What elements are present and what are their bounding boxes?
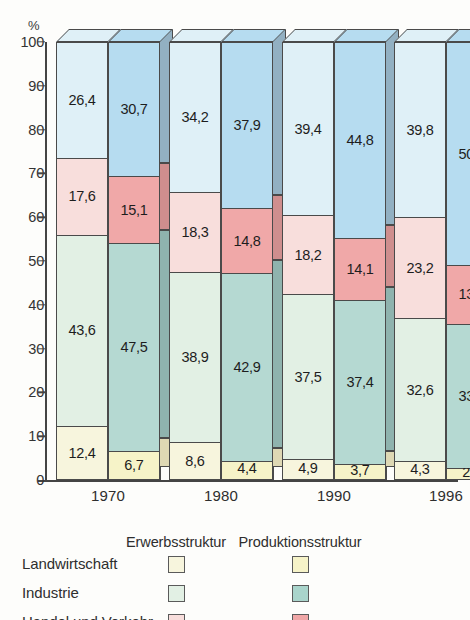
bar-segment-handel[interactable]: 14,1 <box>334 238 386 300</box>
bar-segment-handel[interactable]: 13,5 <box>446 265 470 324</box>
legend-swatch[interactable] <box>292 585 309 602</box>
legend-swatch[interactable] <box>292 556 309 573</box>
segment-value-label: 13,5 <box>458 287 470 302</box>
segment-value-label: 34,2 <box>181 110 208 125</box>
legend-swatch[interactable] <box>168 556 185 573</box>
segment-value-label: 47,5 <box>120 340 147 355</box>
y-axis-line <box>45 42 47 480</box>
bar-segment-handel[interactable]: 14,8 <box>221 208 273 273</box>
segment-value-label: 17,6 <box>68 189 95 204</box>
y-axis-tick-mark <box>38 85 45 86</box>
y-axis-unit-label: % <box>28 18 40 33</box>
bar-segment-industrie[interactable]: 47,5 <box>108 243 160 451</box>
segment-value-label: 43,6 <box>68 323 95 338</box>
bar-segment-industrie[interactable]: 42,9 <box>221 273 273 461</box>
bar-segment-handel[interactable]: 17,6 <box>56 158 108 235</box>
bar-segment-dienste[interactable]: 39,8 <box>394 42 446 216</box>
bar-segment-industrie[interactable]: 38,9 <box>169 272 221 442</box>
segment-value-label: 37,4 <box>346 375 373 390</box>
bar-segment-landwirtschaft[interactable]: 12,4 <box>56 426 108 480</box>
bar-segment-landwirtschaft[interactable]: 3,7 <box>334 464 386 480</box>
bar-segment-handel[interactable]: 18,2 <box>282 215 334 295</box>
segment-value-label: 44,8 <box>346 133 373 148</box>
legend-row-label: Landwirtschaft <box>22 555 117 572</box>
segment-value-label: 37,5 <box>294 370 321 385</box>
segment-value-label: 33,0 <box>458 389 470 404</box>
y-axis-tick-mark <box>38 435 45 436</box>
bar-segment-industrie[interactable]: 32,6 <box>394 318 446 461</box>
bar-segment-dienste[interactable]: 50,8 <box>446 42 470 265</box>
bar-segment-dienste[interactable]: 44,8 <box>334 42 386 238</box>
bar-segment-landwirtschaft[interactable]: 6,7 <box>108 451 160 480</box>
segment-value-label: 42,9 <box>233 360 260 375</box>
x-axis-tick-label-1970: 1970 <box>56 487 160 504</box>
segment-value-label: 8,6 <box>185 454 204 469</box>
segment-value-label: 4,9 <box>298 461 317 476</box>
bar-segment-industrie[interactable]: 43,6 <box>56 235 108 426</box>
bar-segment-landwirtschaft[interactable]: 4,3 <box>394 461 446 480</box>
segment-value-label: 4,4 <box>237 461 256 476</box>
segment-value-label: 18,3 <box>181 225 208 240</box>
segment-value-label: 23,2 <box>406 261 433 276</box>
segment-value-label: 14,8 <box>233 234 260 249</box>
y-axis-tick-mark <box>38 41 45 42</box>
legend-row-label: Industrie <box>22 584 79 601</box>
x-axis-line <box>38 480 458 482</box>
bar-segment-dienste[interactable]: 39,4 <box>282 42 334 215</box>
bar-segment-dienste[interactable]: 26,4 <box>56 42 108 158</box>
y-axis-tick-mark <box>38 129 45 130</box>
bar-segment-dienste[interactable]: 37,9 <box>221 42 273 208</box>
segment-value-label: 37,9 <box>233 118 260 133</box>
legend-swatch[interactable] <box>168 585 185 602</box>
segment-value-label: 3,7 <box>350 463 369 478</box>
bar-segment-landwirtschaft[interactable]: 8,6 <box>169 442 221 480</box>
segment-value-label: 14,1 <box>346 262 373 277</box>
bar-segment-handel[interactable]: 18,3 <box>169 192 221 272</box>
segment-value-label: 39,4 <box>294 122 321 137</box>
x-axis-tick-label-1990: 1990 <box>282 487 386 504</box>
y-axis-tick-label: 0 <box>0 472 44 488</box>
segment-value-label: 38,9 <box>181 350 208 365</box>
segment-value-label: 18,2 <box>294 248 321 263</box>
x-axis-tick-label-1980: 1980 <box>169 487 273 504</box>
bar-segment-industrie[interactable]: 37,5 <box>282 294 334 458</box>
y-axis-tick-mark <box>38 392 45 393</box>
bar-segment-landwirtschaft[interactable]: 4,9 <box>282 459 334 480</box>
bar-segment-industrie[interactable]: 37,4 <box>334 300 386 464</box>
segment-value-label: 12,4 <box>68 446 95 461</box>
bar-segment-industrie[interactable]: 33,0 <box>446 324 470 469</box>
segment-value-label: 4,3 <box>410 462 429 477</box>
bar-segment-handel[interactable]: 15,1 <box>108 176 160 242</box>
segment-value-label: 39,8 <box>406 123 433 138</box>
bar-segment-dienste[interactable]: 30,7 <box>108 42 160 176</box>
y-axis-tick-mark <box>38 348 45 349</box>
bar-segment-dienste[interactable]: 34,2 <box>169 42 221 192</box>
x-axis-tick-label-1996: 1996 <box>394 487 470 504</box>
legend-column-header-produktionsstruktur: Produktionsstruktur <box>215 534 385 550</box>
y-axis-tick-mark <box>38 216 45 217</box>
bar-segment-landwirtschaft[interactable]: 2,7 <box>446 468 470 480</box>
chart-root: % 010203040506070809010012,443,617,626,4… <box>0 0 470 620</box>
bar-segment-landwirtschaft[interactable]: 4,4 <box>221 461 273 480</box>
legend-swatch[interactable] <box>168 614 185 620</box>
y-axis-tick-mark <box>38 260 45 261</box>
segment-value-label: 15,1 <box>120 203 147 218</box>
legend-row-label: Handel und Verkehr <box>22 613 153 620</box>
segment-value-label: 6,7 <box>124 458 143 473</box>
segment-value-label: 26,4 <box>68 93 95 108</box>
chart-legend: ErwerbsstrukturProduktionsstrukturLandwi… <box>0 530 470 620</box>
segment-value-label: 30,7 <box>120 102 147 117</box>
segment-value-label: 50,8 <box>458 147 470 162</box>
bar-segment-handel[interactable]: 23,2 <box>394 217 446 319</box>
legend-swatch[interactable] <box>292 614 309 620</box>
y-axis-tick-mark <box>38 304 45 305</box>
segment-value-label: 32,6 <box>406 383 433 398</box>
y-axis-tick-mark <box>38 173 45 174</box>
